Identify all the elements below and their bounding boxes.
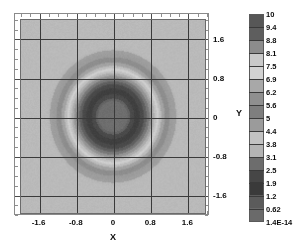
axis-tick	[179, 14, 180, 17]
axis-tick	[15, 176, 18, 177]
gridline-vertical	[188, 20, 189, 213]
axis-tick	[15, 166, 18, 167]
gridline-vertical	[151, 20, 152, 213]
colorbar-tick-label: 8.1	[266, 49, 276, 58]
colorbar-tick-label: 10	[266, 10, 274, 19]
colorbar-tick	[249, 157, 264, 158]
x-tick-label: 0.8	[145, 218, 156, 227]
colorbar-band	[250, 118, 263, 131]
gridline-horizontal	[21, 79, 205, 80]
axis-tick	[105, 14, 106, 17]
axis-tick	[133, 14, 134, 17]
colorbar-band	[250, 15, 263, 28]
y-tick-label: -1.6	[213, 190, 227, 199]
y-tick-label: 0.8	[213, 73, 224, 82]
colorbar-band	[250, 54, 263, 67]
colorbar-band	[250, 208, 263, 221]
colorbar-tick-label: 3.8	[266, 140, 276, 149]
colorbar-band	[250, 105, 263, 118]
colorbar-band	[250, 92, 263, 105]
axis-tick	[15, 186, 18, 187]
colorbar-tick	[249, 92, 264, 93]
axis-tick	[67, 14, 68, 17]
gridline-horizontal	[21, 196, 205, 197]
colorbar-tick-label: 4.4	[266, 127, 276, 136]
axis-tick	[15, 20, 18, 21]
gridline-vertical	[77, 20, 78, 213]
axis-tick	[170, 14, 171, 17]
axis-tick	[161, 14, 162, 17]
axis-tick	[15, 88, 18, 89]
x-axis-title: X	[110, 232, 116, 242]
colorbar-band	[250, 67, 263, 80]
colorbar-tick	[249, 118, 264, 119]
axis-tick	[207, 14, 208, 17]
axis-tick	[95, 14, 96, 17]
x-tick-label: -0.8	[69, 218, 83, 227]
axis-tick	[30, 14, 31, 17]
colorbar-band	[250, 157, 263, 170]
x-tick-label: -1.6	[32, 218, 46, 227]
colorbar-tick-labels: 109.48.88.17.56.96.25.654.43.83.12.51.91…	[266, 14, 306, 222]
colorbar-tick-label: 9.4	[266, 23, 276, 32]
plot-data-area	[20, 19, 206, 214]
axis-tick	[15, 108, 18, 109]
axis-tick	[15, 127, 18, 128]
contour-plot-figure: -1.6-0.800.81.6 1.60.80-0.8-1.6 X Y 109.…	[0, 0, 306, 252]
colorbar-band	[250, 182, 263, 195]
colorbar-tick	[249, 170, 264, 171]
y-axis-title: Y	[236, 108, 242, 118]
colorbar-band	[250, 170, 263, 183]
colorbar-tick	[249, 66, 264, 67]
colorbar-tick-label: 6.9	[266, 75, 276, 84]
colorbar-tick	[249, 53, 264, 54]
axis-tick	[123, 14, 124, 17]
colorbar-tick	[249, 27, 264, 28]
axis-tick	[198, 14, 199, 17]
gridline-horizontal	[21, 118, 205, 119]
axis-tick	[21, 14, 22, 17]
axis-tick	[15, 205, 18, 206]
x-tick-label: 1.6	[182, 218, 193, 227]
colorbar-tick	[249, 105, 264, 106]
axis-tick	[15, 98, 18, 99]
axis-tick	[49, 14, 50, 17]
colorbar-band	[250, 131, 263, 144]
colorbar-tick-label: 3.1	[266, 153, 276, 162]
colorbar-tick-label: 8.8	[266, 36, 276, 45]
y-tick-label: -0.8	[213, 151, 227, 160]
axis-tick	[15, 137, 18, 138]
gridline-vertical	[40, 20, 41, 213]
colorbar-tick	[249, 144, 264, 145]
axis-tick	[15, 59, 18, 60]
colorbar-tick-label: 7.5	[266, 62, 276, 71]
y-tick-label: 1.6	[213, 34, 224, 43]
x-tick-label: 0	[111, 218, 115, 227]
colorbar-tick	[249, 79, 264, 80]
colorbar-tick	[249, 40, 264, 41]
colorbar-band	[250, 195, 263, 208]
axis-tick	[15, 69, 18, 70]
colorbar-tick-label: 1.9	[266, 179, 276, 188]
colorbar-band	[250, 79, 263, 92]
axis-tick	[205, 215, 208, 216]
grid-overlay	[21, 20, 205, 213]
axis-tick	[207, 211, 208, 214]
colorbar-tick	[249, 196, 264, 197]
axis-tick	[58, 14, 59, 17]
colorbar-band	[250, 41, 263, 54]
axis-tick	[86, 14, 87, 17]
colorbar-tick-label: 5	[266, 114, 270, 123]
colorbar-tick-label: 5.6	[266, 101, 276, 110]
colorbar-tick	[249, 183, 264, 184]
y-tick-label: 0	[213, 112, 217, 121]
gridline-horizontal	[21, 157, 205, 158]
axis-tick	[142, 14, 143, 17]
gridline-horizontal	[21, 39, 205, 40]
colorbar-tick	[249, 209, 264, 210]
colorbar-tick-label: 6.2	[266, 88, 276, 97]
axis-tick	[15, 49, 18, 50]
colorbar-band	[250, 144, 263, 157]
colorbar-band	[250, 28, 263, 41]
axis-tick	[15, 30, 18, 31]
